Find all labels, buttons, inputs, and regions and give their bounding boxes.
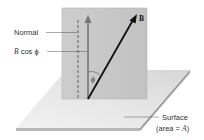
b-cos-phi-label: B cos ϕ: [14, 47, 39, 56]
area-label: (area = A): [156, 124, 190, 133]
normal-label: Normal: [14, 28, 39, 37]
vector-b-label: B: [139, 14, 144, 23]
flux-diagram: ϕ B Normal B cos ϕ Surface (area = A): [0, 0, 204, 140]
surface-label: Surface: [162, 113, 188, 122]
angle-label: ϕ: [91, 75, 95, 84]
plate-front-edge: [16, 128, 140, 131]
